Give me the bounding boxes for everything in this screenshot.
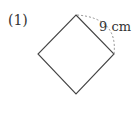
side-length-label: 9 cm [99,20,131,33]
